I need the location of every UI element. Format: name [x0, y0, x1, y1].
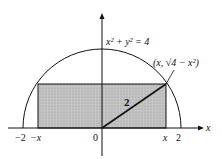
circle-equation-label: x² + y² = 4 — [105, 36, 149, 47]
tick-label-neg-x: −x — [30, 132, 42, 143]
x-axis-arrow-icon — [198, 126, 204, 131]
semicircle-inscribed-rectangle-diagram: x² + y² = 4 (x, √4 − x²) 2 x −2 −x 0 x 2 — [0, 0, 222, 159]
radius-label: 2 — [124, 96, 130, 108]
tick-label-neg-two: −2 — [15, 132, 26, 143]
y-axis-arrow-icon — [100, 13, 105, 19]
point-leader-line — [166, 70, 174, 84]
tick-label-origin: 0 — [93, 132, 98, 143]
tick-label-pos-x: x — [162, 132, 168, 143]
point-coordinate-label: (x, √4 − x²) — [153, 57, 199, 69]
tick-label-pos-two: 2 — [176, 132, 181, 143]
x-axis-label: x — [205, 122, 211, 133]
